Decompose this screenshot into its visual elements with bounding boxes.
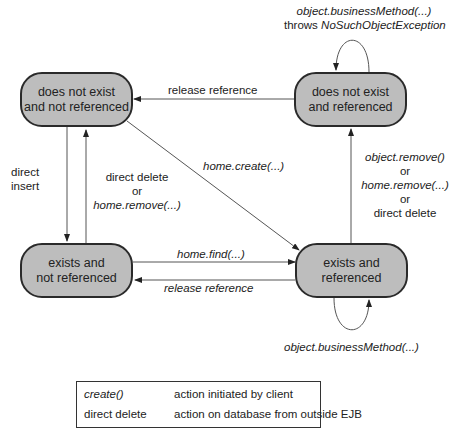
arrow-top-self-loop	[336, 40, 369, 72]
label-line: NoSuchObjectException	[321, 19, 446, 31]
state-does-not-exist-not-referenced: does not existand not referenced	[20, 72, 133, 127]
label-remove: object.remove() or home.remove(...) or d…	[360, 150, 450, 220]
legend: create() action initiated by client dire…	[76, 381, 321, 428]
state-label: exists and	[322, 256, 382, 271]
label-line: object.businessMethod(...)	[284, 4, 444, 18]
transition-arrows	[0, 0, 457, 442]
legend-value: action on database from outside EJB	[174, 408, 362, 420]
state-label: and referenced	[308, 100, 392, 115]
state-exists-referenced: exists andreferenced	[295, 243, 408, 298]
label-line: object.remove()	[360, 150, 450, 164]
label-bottom-self-loop: object.businessMethod(...)	[284, 340, 419, 354]
state-label: does not exist	[24, 85, 129, 100]
legend-key: direct delete	[84, 408, 147, 420]
label-line: direct delete	[360, 206, 450, 220]
label-line: direct delete	[92, 170, 182, 184]
label-home-find: home.find(...)	[177, 247, 245, 261]
state-label: does not exist	[308, 85, 392, 100]
legend-value: action initiated by client	[174, 388, 293, 400]
label-line: home.remove(...)	[92, 198, 182, 212]
label-top-self-loop: object.businessMethod(...) throws NoSuch…	[284, 4, 444, 32]
legend-key: create()	[84, 388, 124, 400]
label-line: or	[92, 184, 182, 198]
label-release-reference-bottom: release reference	[164, 281, 254, 295]
label-line: throws	[284, 19, 321, 31]
label-line: direct	[11, 165, 39, 179]
state-label: exists and	[36, 256, 117, 271]
label-home-create: home.create(...)	[203, 159, 284, 173]
state-exists-not-referenced: exists andnot referenced	[20, 243, 133, 298]
label-line: home.remove(...)	[360, 178, 450, 192]
label-line: insert	[11, 179, 39, 193]
label-line: or	[360, 192, 450, 206]
label-line: or	[360, 164, 450, 178]
label-release-reference-top: release reference	[168, 83, 258, 97]
state-does-not-exist-referenced: does not existand referenced	[294, 72, 407, 127]
label-direct-delete: direct delete or home.remove(...)	[92, 170, 182, 212]
state-label: referenced	[322, 271, 382, 286]
state-label: and not referenced	[24, 100, 129, 115]
arrow-bottom-self-loop	[334, 298, 369, 330]
state-label: not referenced	[36, 271, 117, 286]
label-direct-insert: direct insert	[11, 165, 39, 193]
